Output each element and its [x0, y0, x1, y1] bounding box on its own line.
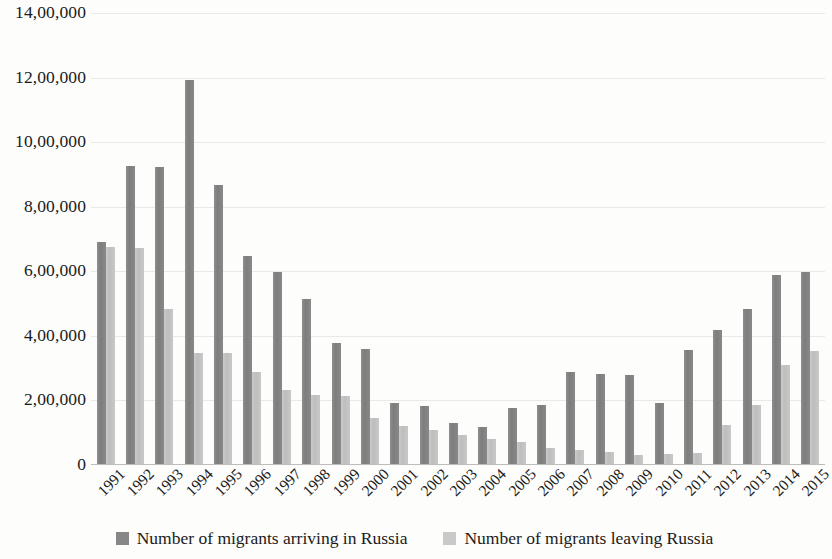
bar-leaving: [722, 425, 731, 465]
bar-group: [649, 13, 678, 465]
bar-group: [531, 13, 560, 465]
bar-arriving: [185, 80, 194, 465]
bar-arriving: [743, 309, 752, 465]
y-axis-tick-label: 0: [0, 456, 86, 474]
bar-leaving: [341, 396, 350, 465]
x-axis-labels: 1991199219931994199519961997199819992000…: [91, 468, 825, 528]
bar-arriving: [478, 427, 487, 465]
legend-item[interactable]: Number of migrants arriving in Russia: [116, 530, 408, 548]
bar-group: [91, 13, 120, 465]
bar-group: [150, 13, 179, 465]
bar-leaving: [252, 372, 261, 465]
x-axis-tick: 1998: [297, 468, 326, 528]
bar-leaving: [164, 309, 173, 465]
legend-label: Number of migrants leaving Russia: [464, 530, 713, 548]
x-axis-tick: 1995: [208, 468, 237, 528]
bar-leaving: [517, 442, 526, 465]
bar-group: [326, 13, 355, 465]
x-axis-tick: 2009: [619, 468, 648, 528]
y-axis-labels: 14,00,00012,00,00010,00,0008,00,0006,00,…: [0, 0, 86, 478]
y-axis-tick-label: 4,00,000: [0, 327, 86, 345]
x-axis-tick: 2004: [473, 468, 502, 528]
bar-leaving: [399, 426, 408, 465]
bar-arriving: [302, 299, 311, 465]
x-axis-tick: 2014: [766, 468, 795, 528]
bar-group: [267, 13, 296, 465]
x-axis-tick: 2001: [385, 468, 414, 528]
bar-arriving: [537, 405, 546, 465]
bar-arriving: [420, 406, 429, 465]
bar-leaving: [223, 353, 232, 465]
x-axis-tick: 2011: [678, 468, 707, 528]
x-axis-tick: 1999: [326, 468, 355, 528]
plot-area: [91, 13, 825, 465]
x-axis-tick: 1996: [238, 468, 267, 528]
bar-group: [766, 13, 795, 465]
bar-arriving: [214, 185, 223, 465]
legend-label: Number of migrants arriving in Russia: [137, 530, 408, 548]
y-axis-tick-label: 8,00,000: [0, 198, 86, 216]
bar-arriving: [596, 374, 605, 465]
legend-swatch-leaving: [443, 532, 456, 545]
bar-arriving: [566, 372, 575, 465]
x-axis-tick: 2007: [561, 468, 590, 528]
bar-arriving: [684, 350, 693, 465]
bar-group: [473, 13, 502, 465]
x-axis-tick-label: 2015: [799, 466, 832, 499]
bar-arriving: [713, 330, 722, 465]
x-axis-tick: 2008: [590, 468, 619, 528]
bar-group: [619, 13, 648, 465]
bar-arriving: [97, 242, 106, 465]
bar-arriving: [155, 167, 164, 465]
bar-leaving: [282, 390, 291, 465]
bar-group: [796, 13, 825, 465]
bar-group: [502, 13, 531, 465]
x-axis-tick: 1994: [179, 468, 208, 528]
bar-group: [737, 13, 766, 465]
x-axis-tick: 1997: [267, 468, 296, 528]
x-axis-tick: 2002: [414, 468, 443, 528]
bar-leaving: [458, 435, 467, 465]
bar-leaving: [370, 418, 379, 465]
bar-leaving: [487, 439, 496, 465]
bar-leaving: [810, 351, 819, 465]
bar-arriving: [126, 166, 135, 465]
bar-group: [561, 13, 590, 465]
bar-leaving: [106, 247, 115, 465]
bar-arriving: [801, 272, 810, 465]
bar-group: [297, 13, 326, 465]
bar-group: [120, 13, 149, 465]
x-axis-tick: 1992: [120, 468, 149, 528]
bar-leaving: [575, 450, 584, 465]
bar-arriving: [243, 256, 252, 465]
x-axis-tick: 2010: [649, 468, 678, 528]
bar-group: [208, 13, 237, 465]
bar-leaving: [781, 365, 790, 465]
bar-leaving: [752, 405, 761, 465]
bar-arriving: [390, 403, 399, 465]
bar-arriving: [625, 375, 634, 465]
y-axis-tick-label: 10,00,000: [0, 133, 86, 151]
x-axis-tick: 2006: [531, 468, 560, 528]
bar-leaving: [546, 448, 555, 465]
bar-arriving: [508, 408, 517, 465]
bar-leaving: [311, 395, 320, 465]
x-axis-tick: 2013: [737, 468, 766, 528]
bar-arriving: [655, 403, 664, 465]
bar-arriving: [273, 272, 282, 465]
bar-leaving: [194, 353, 203, 465]
bar-arriving: [332, 343, 341, 465]
bar-group: [238, 13, 267, 465]
y-axis-tick-label: 14,00,000: [0, 4, 86, 22]
bar-leaving: [429, 430, 438, 465]
x-axis-tick: 2005: [502, 468, 531, 528]
legend-item[interactable]: Number of migrants leaving Russia: [443, 530, 713, 548]
bar-arriving: [449, 423, 458, 465]
bar-group: [355, 13, 384, 465]
bar-arriving: [772, 275, 781, 465]
x-axis-tick: 2003: [443, 468, 472, 528]
x-axis-tick: 2015: [796, 468, 825, 528]
x-axis-tick: 1993: [150, 468, 179, 528]
bar-group: [590, 13, 619, 465]
